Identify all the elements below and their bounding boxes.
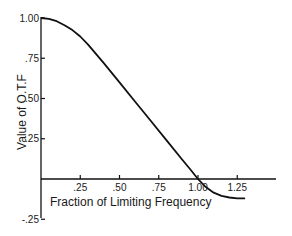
y-tick-label: .75 [25, 53, 39, 64]
x-tick-label: .50 [113, 182, 127, 193]
x-tick-label: .75 [152, 182, 166, 193]
otf-chart: 1.00.75.50.25-.25 .25.50.751.001.25 Frac… [0, 0, 292, 236]
otf-curve [41, 18, 245, 198]
y-tick-label: -.25 [22, 214, 40, 225]
x-axis-title: Fraction of Limiting Frequency [50, 195, 211, 209]
y-axis-title: Value of O.T.F [15, 74, 29, 150]
x-tick-label: .25 [73, 182, 87, 193]
x-tick-label: 1.25 [228, 182, 248, 193]
x-ticks: .25.50.751.001.25 [73, 175, 247, 193]
y-tick-label: 1.00 [20, 13, 40, 24]
